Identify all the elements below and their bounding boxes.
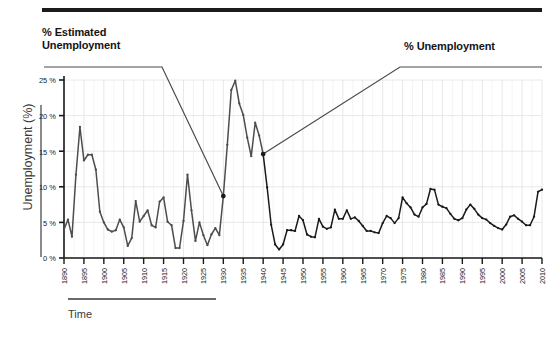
svg-text:1950: 1950	[299, 268, 308, 284]
svg-text:1995: 1995	[478, 268, 487, 284]
svg-text:1890: 1890	[60, 268, 69, 284]
svg-text:1955: 1955	[319, 268, 328, 284]
svg-text:1970: 1970	[379, 268, 388, 284]
svg-text:1985: 1985	[438, 268, 447, 284]
svg-text:20 %: 20 %	[39, 112, 56, 121]
svg-text:25 %: 25 %	[39, 76, 56, 85]
svg-text:0 %: 0 %	[43, 254, 56, 263]
svg-text:2010: 2010	[538, 268, 547, 284]
unemployment-figure: % Estimated Unemployment % Unemployment …	[0, 0, 550, 337]
svg-text:1905: 1905	[120, 268, 129, 284]
svg-text:15 %: 15 %	[39, 148, 56, 157]
vertical-gridlines	[64, 80, 542, 258]
svg-text:1900: 1900	[100, 268, 109, 284]
svg-text:1990: 1990	[458, 268, 467, 284]
svg-text:1930: 1930	[219, 268, 228, 284]
svg-text:1965: 1965	[359, 268, 368, 284]
svg-text:1945: 1945	[279, 268, 288, 284]
svg-text:5 %: 5 %	[43, 219, 56, 228]
svg-text:1980: 1980	[419, 268, 428, 284]
svg-text:1935: 1935	[239, 268, 248, 284]
x-axis-ticks: 1890189519001905191019151920192519301935…	[60, 258, 547, 284]
y-axis-ticks: 0 %5 %10 %15 %20 %25 %	[39, 76, 64, 263]
svg-text:1940: 1940	[259, 268, 268, 284]
svg-text:10 %: 10 %	[39, 183, 56, 192]
svg-text:1910: 1910	[140, 268, 149, 284]
svg-text:2000: 2000	[498, 268, 507, 284]
svg-text:1915: 1915	[160, 268, 169, 284]
svg-text:2005: 2005	[518, 268, 527, 284]
svg-text:1925: 1925	[199, 268, 208, 284]
chart-plot: 0 %5 %10 %15 %20 %25 % 18901895190019051…	[0, 0, 550, 337]
svg-text:1975: 1975	[399, 268, 408, 284]
svg-text:1895: 1895	[80, 268, 89, 284]
svg-text:1920: 1920	[180, 268, 189, 284]
svg-text:1960: 1960	[339, 268, 348, 284]
